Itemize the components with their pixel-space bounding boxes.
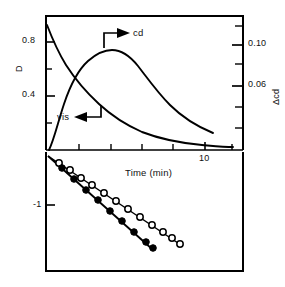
figure-canvas xyxy=(0,0,285,287)
upper-left-tick-label-0-4: 0.4 xyxy=(22,90,35,99)
curve-label-vis: vis xyxy=(57,112,69,122)
figure-container: 0.8 0.4 D 0.10 0.06 Δcd cd vis 10 Time (… xyxy=(0,0,285,287)
upper-left-axis-ticks xyxy=(46,42,55,123)
upper-right-axis-ticks xyxy=(232,26,243,128)
x-axis-label: Time (min) xyxy=(125,168,172,178)
x-axis-tick-label-10: 10 xyxy=(199,154,209,163)
upper-right-tick-label-0-10: 0.10 xyxy=(248,39,266,48)
upper-left-tick-label-0-8: 0.8 xyxy=(22,36,35,45)
cd-annotation-leader xyxy=(104,28,130,48)
curve-label-cd: cd xyxy=(133,28,143,38)
lower-left-tick-label-minus-1: -1 xyxy=(33,200,41,209)
upper-left-axis-label: D xyxy=(15,65,24,72)
upper-right-axis-label: Δcd xyxy=(272,89,281,105)
upper-right-tick-label-0-06: 0.06 xyxy=(248,80,266,89)
curve-cd xyxy=(49,50,213,150)
upper-panel-frame xyxy=(46,15,243,150)
vis-annotation-leader xyxy=(74,105,101,122)
